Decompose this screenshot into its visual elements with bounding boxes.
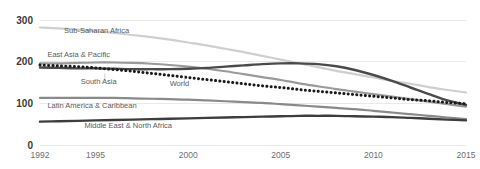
x-tick-1992: 1992 <box>31 150 50 160</box>
series-label-latin-america-caribbean: Latin America & Caribbean <box>47 101 136 110</box>
series-label-world: World <box>170 79 189 88</box>
x-tick-2005: 2005 <box>271 150 290 160</box>
chart-svg: Sub-Saharan AfricaEast Asia & PacificSou… <box>0 0 480 169</box>
series-label-sub-saharan-africa: Sub-Saharan Africa <box>64 26 130 35</box>
series-labels: Sub-Saharan AfricaEast Asia & PacificSou… <box>47 26 189 130</box>
y-tick-300: 300 <box>16 15 33 26</box>
x-tick-2015: 2015 <box>457 150 476 160</box>
line-chart: Sub-Saharan AfricaEast Asia & PacificSou… <box>0 0 480 169</box>
y-tick-100: 100 <box>16 98 33 109</box>
y-tick-0: 0 <box>27 140 33 151</box>
series-label-east-asia-pacific: East Asia & Pacific <box>47 50 110 59</box>
x-tick-2000: 2000 <box>179 150 198 160</box>
y-tick-200: 200 <box>16 56 33 67</box>
x-axis-tick-labels: 199219952000200520102015 <box>31 150 476 160</box>
y-axis-tick-labels: 0100200300 <box>16 15 33 151</box>
series-label-south-asia: South Asia <box>81 77 118 86</box>
series-label-middle-east-north-africa: Middle East & North Africa <box>84 121 172 130</box>
x-tick-1995: 1995 <box>86 150 105 160</box>
x-tick-2010: 2010 <box>364 150 383 160</box>
